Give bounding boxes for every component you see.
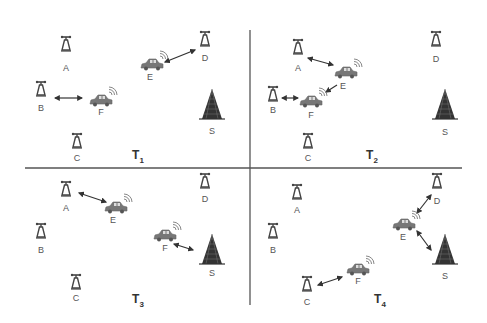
link-arrow-a-e [308, 58, 333, 65]
node-label-f: F [98, 108, 104, 117]
roadside-unit-icon [200, 31, 210, 46]
car-icon [335, 59, 362, 79]
panel-t3 [36, 173, 225, 289]
node-label-s: S [209, 269, 215, 278]
link-arrow-e-f [326, 85, 337, 92]
roadside-unit-icon [431, 31, 441, 46]
panel-time-label: T2 [366, 149, 378, 164]
link-arrow-c-f [318, 277, 342, 285]
node-label-c: C [304, 298, 311, 307]
nodes-layer [36, 31, 458, 291]
roadside-unit-icon [72, 133, 82, 148]
node-label-d: D [202, 54, 209, 63]
roadside-unit-icon [200, 173, 210, 188]
node-label-c: C [305, 154, 312, 163]
node-label-a: A [294, 206, 300, 215]
roadside-unit-icon [293, 39, 303, 54]
roadside-unit-icon [61, 181, 71, 196]
link-arrow-a-e [79, 193, 106, 202]
node-label-d: D [202, 195, 209, 204]
node-label-f: F [162, 244, 168, 253]
car-icon [393, 211, 420, 231]
node-label-e: E [400, 233, 406, 242]
node-label-d: D [434, 197, 441, 206]
node-label-s: S [209, 127, 215, 136]
node-label-b: B [38, 104, 44, 113]
car-icon [154, 222, 181, 242]
link-arrow-f-s [174, 244, 193, 250]
panel-time-label: T3 [132, 293, 144, 308]
node-label-d: D [433, 55, 440, 64]
roadside-unit-icon [268, 86, 278, 101]
node-label-a: A [63, 204, 69, 213]
car-icon [90, 87, 117, 107]
node-label-e: E [147, 73, 153, 82]
base-station-tower-icon [432, 234, 458, 264]
node-label-e: E [110, 216, 116, 225]
node-label-b: B [38, 246, 44, 255]
base-station-tower-icon [199, 89, 225, 119]
link-arrow-e-s [417, 231, 431, 250]
node-label-e: E [340, 82, 346, 91]
node-label-a: A [295, 64, 301, 73]
roadside-unit-icon [292, 184, 302, 199]
roadside-unit-icon [303, 133, 313, 148]
node-label-f: F [355, 277, 361, 286]
panel-t4 [268, 173, 458, 291]
panel-time-label: T4 [374, 293, 386, 308]
link-arrow-e-d [165, 50, 195, 62]
node-label-c: C [74, 154, 81, 163]
link-arrow-e-d [417, 195, 431, 213]
panel-time-label: T1 [132, 149, 144, 164]
roadside-unit-icon [268, 223, 278, 238]
panel-t2 [268, 31, 458, 148]
roadside-unit-icon [36, 223, 46, 238]
node-label-b: B [270, 106, 276, 115]
roadside-unit-icon [302, 276, 312, 291]
roadside-unit-icon [36, 81, 46, 96]
node-label-c: C [73, 294, 80, 303]
roadside-unit-icon [432, 173, 442, 188]
panel-t1 [36, 31, 225, 148]
node-label-s: S [442, 272, 448, 281]
car-icon [141, 51, 168, 71]
node-label-a: A [63, 64, 69, 73]
car-icon [347, 256, 374, 276]
node-label-f: F [308, 111, 314, 120]
node-label-b: B [270, 246, 276, 255]
car-icon [300, 88, 327, 108]
roadside-unit-icon [71, 274, 81, 289]
base-station-tower-icon [199, 234, 225, 264]
car-icon [105, 194, 132, 214]
node-label-s: S [442, 128, 448, 137]
roadside-unit-icon [61, 36, 71, 51]
base-station-tower-icon [432, 89, 458, 119]
